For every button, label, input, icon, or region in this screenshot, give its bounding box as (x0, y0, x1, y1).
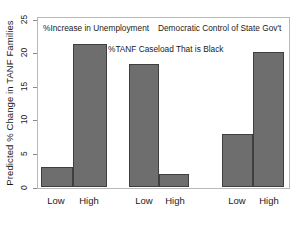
y-axis-label: Predicted % Change in TANF Families (3, 17, 17, 189)
x-tick-label-group1-low: Low (39, 195, 73, 206)
x-tick-label-group2-low: Low (127, 195, 161, 206)
y-tick-label-20: 20 (20, 45, 29, 61)
plot-area: %Increase in Unemployment %TANF Caseload… (37, 17, 290, 189)
bar-group1-high (73, 44, 107, 187)
bar-group3-high (253, 52, 284, 187)
bar-group2-low (129, 64, 159, 187)
bar-group2-high (159, 174, 189, 187)
annotation-tanf-caseload: %TANF Caseload That is Black (108, 44, 223, 54)
x-tick-label-group3-low: Low (220, 195, 254, 206)
y-tick-label-15: 15 (20, 79, 29, 95)
y-tick-label-10: 10 (20, 112, 29, 128)
bar-chart-figure: Predicted % Change in TANF Families 25 2… (0, 0, 293, 230)
bar-group3-low (222, 134, 253, 187)
x-tick-label-group3-high: High (252, 195, 286, 206)
y-tick-label-5: 5 (20, 146, 29, 162)
y-tick-label-25: 25 (20, 12, 29, 28)
x-tick-label-group2-high: High (158, 195, 192, 206)
bar-group1-low (41, 167, 73, 187)
annotation-democratic-control: Democratic Control of State Gov't (158, 23, 281, 33)
y-tick-label-0: 0 (20, 180, 29, 196)
x-tick-label-group1-high: High (72, 195, 106, 206)
annotation-unemployment: %Increase in Unemployment (43, 23, 149, 33)
